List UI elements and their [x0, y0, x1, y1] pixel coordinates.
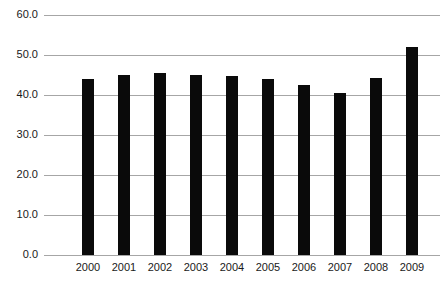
- x-axis-tick-label: 2009: [390, 261, 434, 273]
- y-axis-tick-label: 20.0: [0, 169, 38, 180]
- bar: [262, 79, 274, 255]
- y-axis-tick-label: 0.0: [0, 249, 38, 260]
- y-axis-tick-label: 10.0: [0, 209, 38, 220]
- bar: [190, 75, 202, 255]
- bar: [82, 79, 94, 255]
- gridline: [44, 15, 440, 16]
- bar: [298, 85, 310, 255]
- axis-baseline: [44, 255, 440, 256]
- bar: [334, 93, 346, 255]
- bar: [118, 75, 130, 255]
- plot-area: 0.010.020.030.040.050.060.0: [44, 15, 440, 255]
- bar: [226, 76, 238, 255]
- bar: [370, 78, 382, 255]
- bar-chart: 0.010.020.030.040.050.060.0 200020012002…: [0, 0, 448, 283]
- y-axis-tick-label: 40.0: [0, 89, 38, 100]
- gridline: [44, 55, 440, 56]
- y-axis-tick-label: 30.0: [0, 129, 38, 140]
- bar: [406, 47, 418, 255]
- bar: [154, 73, 166, 255]
- y-axis-tick-label: 50.0: [0, 49, 38, 60]
- y-axis-tick-label: 60.0: [0, 9, 38, 20]
